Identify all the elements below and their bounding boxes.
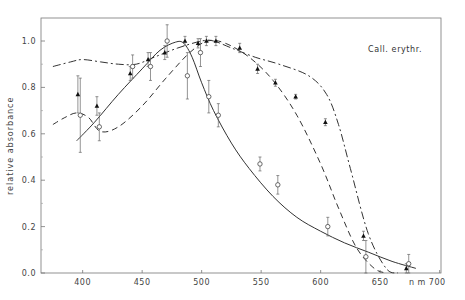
y-tick-label: 1.0 xyxy=(22,37,36,46)
x-tick-label: n m 700 xyxy=(409,278,446,287)
filled-triangle-marker xyxy=(76,92,81,96)
y-tick-label: 0.2 xyxy=(22,223,36,232)
open-circle-marker xyxy=(326,224,330,228)
x-tick-label: 500 xyxy=(193,278,210,287)
filled-triangle-marker xyxy=(293,94,298,98)
x-tick-label: 400 xyxy=(74,278,91,287)
filled-triangle-marker xyxy=(237,45,242,49)
y-axis-ticks: 0.00.20.40.60.81.0 xyxy=(22,37,45,278)
curves xyxy=(53,40,416,273)
open-circle-marker xyxy=(78,113,82,117)
open-circle-marker xyxy=(148,64,152,68)
y-tick-label: 0.0 xyxy=(22,269,36,278)
filled-triangle-marker xyxy=(128,71,133,75)
plot-frame xyxy=(41,18,441,273)
x-tick-label: 600 xyxy=(312,278,329,287)
open-circle-marker xyxy=(207,94,211,98)
filled-triangle-marker xyxy=(255,66,260,70)
filled-triangle-marker xyxy=(323,120,328,124)
open-circle-marker xyxy=(165,39,169,43)
filled-triangle-marker xyxy=(361,233,366,237)
x-tick-label: 650 xyxy=(372,278,389,287)
y-axis-label: relative absorbance xyxy=(6,97,15,195)
data-markers xyxy=(76,25,411,273)
open-circle-marker xyxy=(276,183,280,187)
open-circle-marker xyxy=(364,255,368,259)
filled-triangle-marker xyxy=(183,39,188,43)
dashed-curve xyxy=(53,40,386,273)
open-circle-marker xyxy=(185,74,189,78)
species-annotation: Call. erythr. xyxy=(368,45,422,54)
x-tick-label: 450 xyxy=(134,278,151,287)
open-circle-marker xyxy=(198,50,202,54)
y-tick-label: 0.8 xyxy=(22,83,36,92)
dash-dot-curve xyxy=(53,40,398,273)
x-tick-label: 550 xyxy=(253,278,270,287)
y-tick-label: 0.6 xyxy=(22,130,36,139)
open-circle-marker xyxy=(258,162,262,166)
x-axis-ticks: 400450500550600650n m 700 xyxy=(74,270,445,287)
open-circle-marker xyxy=(97,125,101,129)
open-circle-marker xyxy=(407,262,411,266)
open-circle-marker xyxy=(216,113,220,117)
absorbance-chart: 400450500550600650n m 700 0.00.20.40.60.… xyxy=(0,0,465,300)
open-circle-marker xyxy=(130,64,134,68)
filled-triangle-marker xyxy=(95,103,100,107)
y-tick-label: 0.4 xyxy=(22,176,36,185)
solid-curve xyxy=(77,41,416,268)
